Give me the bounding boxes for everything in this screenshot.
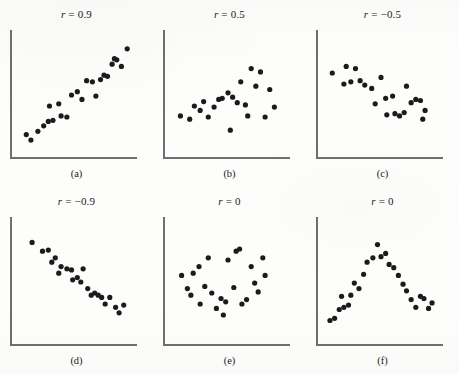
- scatter-point: [346, 303, 351, 308]
- scatter-point: [260, 255, 265, 260]
- scatter-point: [341, 81, 346, 86]
- scatter-point: [258, 69, 263, 74]
- panel-c: r = −0.5 (c): [306, 0, 459, 187]
- panel-e-title-value: = 0: [226, 195, 241, 207]
- scatter-point: [49, 260, 54, 265]
- scatter-point: [79, 97, 84, 102]
- scatter-point: [178, 113, 183, 118]
- scatter-point: [384, 112, 389, 117]
- scatter-point: [422, 108, 427, 113]
- scatter-point: [327, 318, 332, 323]
- scatter-point: [420, 117, 425, 122]
- scatter-point: [188, 293, 193, 298]
- panel-c-title: r = −0.5: [306, 8, 459, 20]
- panel-e-caption: (e): [153, 355, 306, 366]
- scatter-point: [225, 257, 230, 262]
- panel-e-axes: [164, 217, 290, 345]
- scatter-point: [206, 114, 211, 119]
- scatter-point: [53, 255, 58, 260]
- scatter-point: [358, 78, 363, 83]
- scatter-point: [375, 242, 380, 247]
- panel-f-title-symbol: r: [371, 195, 375, 207]
- scatter-point: [228, 128, 233, 133]
- panel-f-svg: [313, 215, 445, 349]
- scatter-point: [29, 240, 34, 245]
- scatter-point: [396, 273, 401, 278]
- scatter-point: [202, 284, 207, 289]
- scatter-point: [341, 305, 346, 310]
- panel-c-points: [330, 64, 428, 122]
- scatter-point: [418, 98, 423, 103]
- panel-a-title: r = 0.9: [0, 8, 153, 20]
- scatter-point: [50, 118, 55, 123]
- panel-e-title-symbol: r: [218, 195, 222, 207]
- scatter-point: [110, 62, 115, 67]
- scatter-point: [187, 117, 192, 122]
- scatter-point: [121, 303, 126, 308]
- scatter-point: [70, 277, 75, 282]
- scatter-point: [221, 312, 226, 317]
- scatter-point: [237, 246, 242, 251]
- scatter-point: [348, 79, 353, 84]
- panel-b-title: r = 0.5: [153, 8, 306, 20]
- panel-b-svg: [160, 28, 292, 162]
- scatter-point: [402, 110, 407, 115]
- panel-a-caption: (a): [0, 168, 153, 179]
- scatter-point: [56, 101, 61, 106]
- scatter-point: [209, 290, 214, 295]
- panel-f-title: r = 0: [306, 195, 459, 207]
- scatter-point: [348, 293, 353, 298]
- scatter-point: [426, 306, 431, 311]
- panel-b-points: [178, 66, 277, 133]
- scatter-point: [41, 123, 46, 128]
- scatter-point: [353, 66, 358, 71]
- scatter-point: [390, 94, 395, 99]
- scatter-point: [214, 306, 219, 311]
- panel-d-caption: (d): [0, 355, 153, 366]
- scatter-point: [344, 64, 349, 69]
- panel-d-title-value: = −0.9: [65, 195, 95, 207]
- panel-c-caption: (c): [306, 168, 459, 179]
- scatter-point: [356, 286, 361, 291]
- scatter-point: [421, 296, 426, 301]
- scatter-point: [362, 83, 367, 88]
- scatter-point: [223, 299, 228, 304]
- scatter-point: [267, 87, 272, 92]
- panel-f-axes: [317, 217, 443, 345]
- scatter-point: [409, 297, 414, 302]
- scatter-point: [64, 266, 69, 271]
- scatter-point: [383, 251, 388, 256]
- panel-a-title-value: = 0.9: [68, 8, 92, 20]
- scatter-point: [46, 119, 51, 124]
- scatter-point: [84, 78, 89, 83]
- scatter-point: [413, 305, 418, 310]
- scatter-point: [78, 279, 83, 284]
- scatter-point: [46, 248, 51, 253]
- scatter-point: [253, 84, 258, 89]
- panel-a-title-symbol: r: [61, 8, 65, 20]
- scatter-point: [387, 262, 392, 267]
- panel-a: r = 0.9 (a): [0, 0, 153, 187]
- panel-f-plot: [313, 215, 445, 349]
- scatter-point: [235, 100, 240, 105]
- scatter-point: [107, 295, 112, 300]
- panel-e-plot: [160, 215, 292, 349]
- scatter-point: [378, 75, 383, 80]
- panel-d-title: r = −0.9: [0, 195, 153, 207]
- scatter-point: [397, 113, 402, 118]
- panel-d-svg: [7, 215, 139, 349]
- scatter-point: [369, 86, 374, 91]
- panel-c-plot: [313, 28, 445, 162]
- panel-f-points: [327, 242, 434, 323]
- scatter-point: [378, 254, 383, 259]
- scatter-point: [249, 264, 254, 269]
- scatter-point: [40, 249, 45, 254]
- scatter-point: [116, 310, 121, 315]
- scatter-point: [69, 267, 74, 272]
- scatter-point: [404, 288, 409, 293]
- scatter-point: [337, 307, 342, 312]
- panel-d-points: [29, 240, 126, 316]
- scatter-point: [231, 285, 236, 290]
- panel-b: r = 0.5 (b): [153, 0, 306, 187]
- scatter-point: [256, 289, 261, 294]
